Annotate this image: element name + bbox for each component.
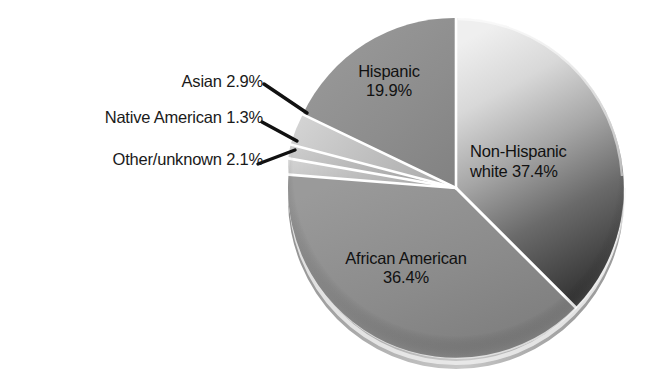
slice-label-hispanic-name: Hispanic <box>329 62 449 81</box>
slice-label-non-hispanic-white: Non-Hispanic white 37.4% <box>470 142 630 182</box>
slice-label-non-hispanic-white-name: Non-Hispanic <box>470 142 630 162</box>
slice-callout-label-asian: Asian 2.9% <box>182 72 263 91</box>
pie-chart: Asian 2.9% Native American 1.3% Other/un… <box>0 0 662 381</box>
slice-label-non-hispanic-white-value: white 37.4% <box>470 162 630 182</box>
pie-chart-graphic <box>0 0 662 381</box>
slice-label-african-american: African American 36.4% <box>296 249 516 288</box>
leader-line-native-american <box>262 122 297 141</box>
slice-label-hispanic: Hispanic 19.9% <box>329 62 449 101</box>
slice-callout-label-other-unknown: Other/unknown 2.1% <box>113 150 264 169</box>
slice-callout-label-native-american: Native American 1.3% <box>105 108 263 127</box>
leader-line-asian <box>264 84 307 113</box>
slice-label-african-american-name: African American <box>296 249 516 268</box>
slice-label-hispanic-value: 19.9% <box>329 81 449 100</box>
slice-label-african-american-value: 36.4% <box>296 268 516 287</box>
